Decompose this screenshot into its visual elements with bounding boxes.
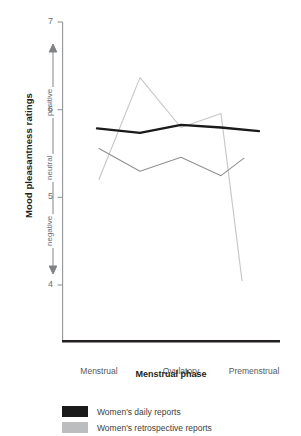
plot-area: 7 6 5 4 Menstrual Ovulatory Premenstrual (62, 18, 280, 342)
legend-label-daily: Women's daily reports (97, 407, 181, 417)
y-axis-valence-scale: negative neutral positive (46, 44, 60, 274)
series-line-retrospective-mid (99, 149, 244, 176)
legend-swatch-retrospective (62, 422, 88, 433)
legend-swatch-daily (62, 406, 88, 417)
mood-pleasantness-line-chart: Mood pleasantness ratings negative neutr… (0, 0, 301, 436)
y-tick-label-7: 7 (35, 16, 53, 26)
data-series-group (62, 18, 280, 342)
valence-label-negative: negative (45, 214, 54, 248)
chart-legend: Women's daily reports Women's retrospect… (62, 404, 301, 436)
x-axis-title: Menstrual phase (62, 369, 280, 379)
series-line-daily (97, 125, 259, 133)
legend-item-daily: Women's daily reports (62, 404, 301, 419)
y-tick-label-4: 4 (35, 279, 53, 289)
legend-item-retrospective: Women's retrospective reports (62, 420, 301, 435)
legend-label-retrospective: Women's retrospective reports (97, 423, 212, 433)
series-line-retrospective-light (99, 78, 242, 281)
y-tick-label-5: 5 (35, 191, 53, 201)
valence-label-neutral: neutral (45, 154, 54, 182)
y-axis-title: Mood pleasantness ratings (23, 56, 34, 256)
y-tick-label-6: 6 (35, 104, 53, 114)
